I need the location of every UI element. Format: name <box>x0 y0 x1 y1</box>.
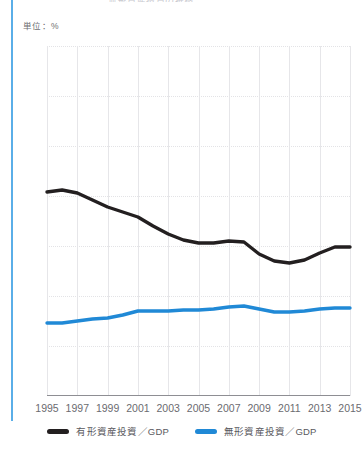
x-tick-2007: 2007 <box>217 402 240 414</box>
x-tick-2013: 2013 <box>308 402 331 414</box>
chart-legend: 有形資産投資／GDP無形資産投資／GDP <box>0 424 364 438</box>
legend-item: 無形資産投資／GDP <box>195 424 317 438</box>
gridline-vertical <box>350 46 351 396</box>
series-line <box>47 306 350 323</box>
legend-item: 有形資産投資／GDP <box>47 424 169 438</box>
x-tick-2001: 2001 <box>126 402 149 414</box>
x-tick-1997: 1997 <box>66 402 89 414</box>
series-line <box>47 190 350 263</box>
plot-area: 05101520253035 1995199719992001200320052… <box>47 46 350 396</box>
x-tick-2015: 2015 <box>338 402 361 414</box>
x-tick-2011: 2011 <box>278 402 301 414</box>
legend-swatch-intangible <box>195 429 217 434</box>
legend-label: 有形資産投資／GDP <box>76 424 169 438</box>
line-chart: 05101520253035 1995199719992001200320052… <box>0 0 364 462</box>
legend-label: 無形資産投資／GDP <box>224 424 317 438</box>
x-tick-1995: 1995 <box>35 402 58 414</box>
x-tick-1999: 1999 <box>96 402 119 414</box>
legend-swatch-tangible <box>47 429 69 434</box>
x-tick-2005: 2005 <box>187 402 210 414</box>
series-lines <box>47 46 350 396</box>
x-tick-2003: 2003 <box>157 402 180 414</box>
x-tick-2009: 2009 <box>247 402 270 414</box>
